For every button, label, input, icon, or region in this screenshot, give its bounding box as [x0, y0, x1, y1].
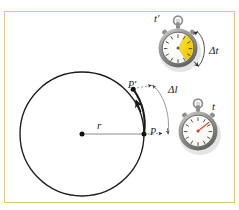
stopwatch-end-hub: [177, 47, 180, 50]
center-dot: [80, 132, 85, 137]
figure-drawing: [0, 0, 239, 210]
point-p-prime-label: P': [128, 80, 136, 90]
arc-length-label: Δl: [168, 84, 178, 95]
time-interval-label: Δt: [209, 45, 219, 56]
stopwatch-end-crown-inner: [176, 18, 180, 22]
time-start-label: t: [212, 101, 215, 112]
stopwatch-start-hub: [197, 130, 200, 133]
circular-motion-figure: r P P' Δl Δt t' t: [0, 0, 239, 210]
radius-label: r: [97, 120, 101, 131]
point-p-label: P: [150, 127, 156, 137]
arc-length-bracket-tick-top: [153, 85, 156, 89]
travelled-arc: [133, 89, 144, 134]
point-p-dot: [142, 132, 147, 137]
stopwatch-start-crown-inner: [196, 101, 200, 105]
leader-dash-p-prime: [137, 85, 152, 88]
time-end-label: t': [154, 13, 159, 24]
stopwatch-end: [159, 16, 202, 72]
